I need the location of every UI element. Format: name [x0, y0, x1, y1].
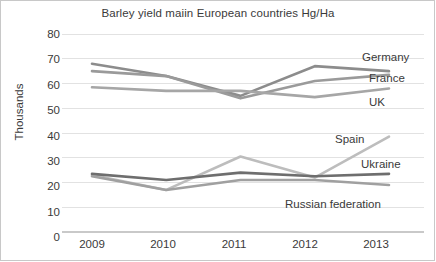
series-label-uk: UK: [369, 96, 385, 108]
series-label-germany: Germany: [362, 51, 409, 63]
series-label-spain: Spain: [335, 133, 364, 145]
line-chart: Barley yield maiin European countries Hg…: [0, 0, 436, 262]
series-label-russian-federation: Russian federation: [285, 198, 381, 210]
series-label-ukraine: Ukraine: [361, 158, 401, 170]
series-lines: [92, 64, 389, 190]
series-label-france: France: [369, 72, 405, 84]
plot-area: [0, 0, 436, 262]
